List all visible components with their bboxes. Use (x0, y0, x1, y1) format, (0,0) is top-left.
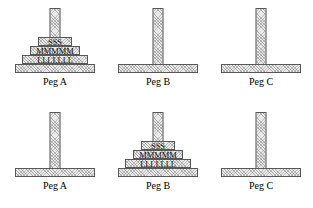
peg-base (15, 168, 95, 177)
disk-large[interactable]: LLLLLLL (22, 55, 88, 64)
peg-base (118, 168, 198, 177)
diagram-row-goal-state: Peg A SSS MMMMM LLLLLLL Peg B Peg C (0, 104, 313, 208)
diagram-row-initial-state: SSS MMMMM LLLLLLL Peg A Peg B Peg C (0, 0, 313, 104)
peg-label: Peg C (209, 76, 313, 88)
peg-post (50, 112, 61, 170)
peg-label: Peg B (106, 180, 210, 192)
peg-base (118, 64, 198, 73)
peg-base (15, 64, 95, 73)
peg-base (221, 168, 301, 177)
peg-base (221, 64, 301, 73)
peg-unit-c-bottom[interactable]: Peg C (209, 104, 313, 208)
peg-post (256, 8, 267, 66)
tower-of-hanoi-diagram: SSS MMMMM LLLLLLL Peg A Peg B Peg C Peg … (0, 0, 313, 208)
disk-medium[interactable]: MMMMM (30, 46, 80, 55)
peg-unit-a-bottom[interactable]: Peg A (3, 104, 107, 208)
disk-large[interactable]: LLLLLLL (125, 159, 191, 168)
peg-label: Peg B (106, 76, 210, 88)
peg-unit-b-top[interactable]: Peg B (106, 0, 210, 104)
peg-unit-b-bottom[interactable]: SSS MMMMM LLLLLLL Peg B (106, 104, 210, 208)
disk-small[interactable]: SSS (38, 37, 72, 46)
peg-label: Peg A (3, 76, 107, 88)
peg-post (256, 112, 267, 170)
peg-label: Peg A (3, 180, 107, 192)
peg-label: Peg C (209, 180, 313, 192)
peg-unit-c-top[interactable]: Peg C (209, 0, 313, 104)
peg-unit-a-top[interactable]: SSS MMMMM LLLLLLL Peg A (3, 0, 107, 104)
disk-small[interactable]: SSS (141, 141, 175, 150)
disk-medium[interactable]: MMMMM (133, 150, 183, 159)
peg-post (153, 8, 164, 66)
